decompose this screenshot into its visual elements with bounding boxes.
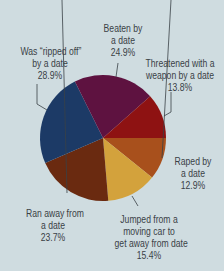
label-threatened: Threatened with a weapon by a date 13.8%	[144, 57, 216, 93]
label-value: 15.4%	[115, 249, 184, 261]
label-value: 13.8%	[144, 81, 216, 93]
leader-line-beaten	[116, 63, 118, 77]
pie-slices	[40, 75, 166, 201]
label-line: Was “ripped off”	[20, 45, 79, 57]
label-value: 28.9%	[20, 69, 79, 81]
leader-line-ripped	[37, 84, 47, 110]
label-line: a date	[100, 34, 146, 46]
label-line: Beaten by	[100, 22, 146, 34]
label-line: moving car to	[115, 225, 184, 237]
label-raped: Raped by a date 12.9%	[173, 155, 214, 191]
label-line: weapon by a date	[144, 69, 216, 81]
label-line: a date	[26, 219, 80, 231]
label-value: 23.7%	[26, 231, 80, 243]
label-line: a date	[173, 167, 214, 179]
label-line: get away from date	[115, 237, 184, 249]
leader-line-jumped	[132, 196, 138, 206]
label-ripped: Was “ripped off” by a date 28.9%	[20, 45, 79, 81]
label-line: Ran away from	[26, 207, 80, 219]
label-value: 12.9%	[173, 179, 214, 191]
label-beaten: Beaten by a date 24.9%	[100, 22, 146, 58]
label-ran: Ran away from a date 23.7%	[26, 207, 80, 243]
label-value: 24.9%	[100, 46, 146, 58]
label-line: by a date	[20, 57, 79, 69]
label-jumped: Jumped from a moving car to get away fro…	[115, 213, 184, 261]
label-line: Jumped from a	[115, 213, 184, 225]
label-line: Threatened with a	[144, 57, 216, 69]
label-line: Raped by	[173, 155, 214, 167]
